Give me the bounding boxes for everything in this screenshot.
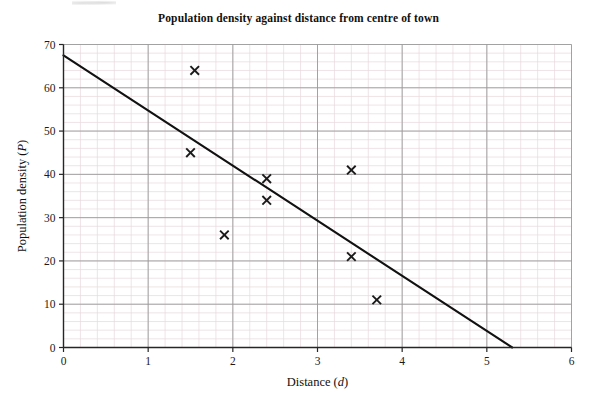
y-tick-label: 10 (44, 298, 56, 310)
y-tick-label: 60 (44, 82, 56, 94)
x-tick-label: 2 (230, 355, 236, 367)
scatter-plot: 0102030405060700123456 Distance (d)Popul… (0, 0, 597, 393)
y-axis-title: Population density (P) (15, 140, 29, 253)
x-tick-label: 0 (61, 355, 67, 367)
y-tick-label: 40 (44, 168, 56, 180)
chart-figure: Population density against distance from… (0, 0, 597, 393)
x-tick-label: 4 (399, 355, 405, 367)
y-tick-label: 70 (44, 39, 56, 51)
x-tick-label: 3 (315, 355, 321, 367)
x-tick-label: 6 (569, 355, 575, 367)
y-tick-label: 20 (44, 255, 56, 267)
y-tick-label: 50 (44, 125, 56, 137)
x-tick-label: 5 (484, 355, 490, 367)
x-axis-title: Distance (d) (287, 375, 348, 389)
y-tick-label: 0 (50, 342, 56, 354)
x-tick-label: 1 (145, 355, 151, 367)
y-tick-label: 30 (44, 212, 56, 224)
